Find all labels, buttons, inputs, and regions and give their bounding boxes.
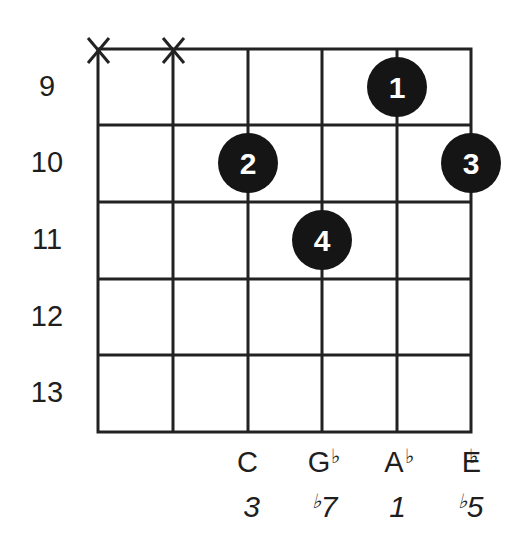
svg-text:4: 4 [314,224,331,257]
fret-label-9: 9 [17,70,77,103]
svg-text:2: 2 [240,147,257,180]
fret-label-12: 12 [17,300,77,333]
degree-string-3: 3 [221,490,281,524]
fret-label-10: 10 [17,146,77,179]
finger-dot-4: 4 [292,210,352,270]
fret-label-13: 13 [17,376,77,409]
degree-string-6: ♭5 [440,490,500,524]
finger-dot-1: 1 [367,57,427,117]
note-string-6: E♭ [440,446,500,479]
note-string-3: C [218,446,278,479]
finger-dots: 1 2 3 4 [218,57,501,270]
degree-string-4: ♭7 [294,490,354,524]
degree-string-5: 1 [367,490,427,524]
svg-text:1: 1 [389,71,406,104]
fret-label-11: 11 [17,223,77,256]
finger-dot-2: 2 [218,133,278,193]
note-string-5: A♭ [369,446,429,479]
note-string-4: G♭ [294,446,354,479]
finger-dot-3: 3 [441,133,501,193]
svg-text:3: 3 [463,147,480,180]
